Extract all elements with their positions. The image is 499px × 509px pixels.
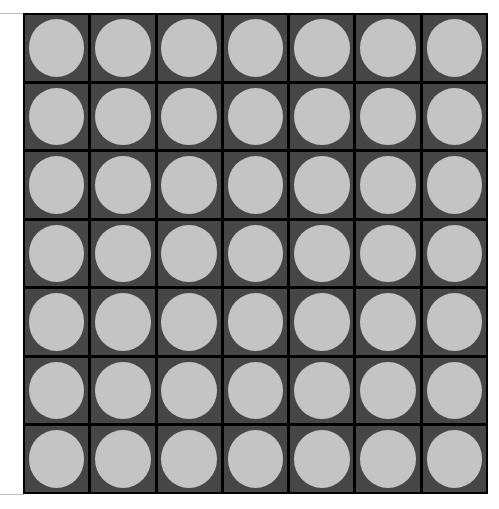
slot-empty [29, 225, 85, 283]
game-board [23, 13, 488, 494]
board-cell[interactable] [158, 221, 221, 287]
board-cell[interactable] [158, 84, 221, 150]
slot-empty [29, 88, 85, 146]
board-cell[interactable] [158, 358, 221, 424]
slot-empty [29, 19, 85, 77]
slot-empty [29, 293, 85, 351]
slot-empty [228, 293, 284, 351]
board-cell[interactable] [25, 84, 88, 150]
board-cell[interactable] [290, 15, 353, 81]
slot-empty [228, 362, 284, 420]
board-cell[interactable] [91, 84, 154, 150]
top-divider [0, 13, 24, 14]
slot-empty [95, 156, 151, 214]
slot-empty [360, 430, 416, 488]
board-cell[interactable] [25, 289, 88, 355]
slot-empty [228, 19, 284, 77]
slot-empty [294, 19, 350, 77]
board-cell[interactable] [91, 358, 154, 424]
board-cell[interactable] [423, 358, 486, 424]
board-cell[interactable] [423, 426, 486, 492]
board-cell[interactable] [158, 15, 221, 81]
board-cell[interactable] [356, 221, 419, 287]
slot-empty [29, 430, 85, 488]
board-cell[interactable] [91, 15, 154, 81]
slot-empty [29, 156, 85, 214]
slot-empty [427, 430, 483, 488]
slot-empty [294, 362, 350, 420]
slot-empty [360, 225, 416, 283]
board-cell[interactable] [25, 15, 88, 81]
board-cell[interactable] [423, 152, 486, 218]
board-cell[interactable] [356, 84, 419, 150]
slot-empty [228, 430, 284, 488]
board-cell[interactable] [356, 152, 419, 218]
slot-empty [360, 293, 416, 351]
board-cell[interactable] [290, 84, 353, 150]
bottom-divider [0, 494, 24, 495]
slot-empty [427, 88, 483, 146]
board-cell[interactable] [224, 289, 287, 355]
slot-empty [294, 293, 350, 351]
slot-empty [95, 19, 151, 77]
slot-empty [95, 430, 151, 488]
slot-empty [29, 362, 85, 420]
board-cell[interactable] [224, 358, 287, 424]
board-cell[interactable] [91, 152, 154, 218]
board-cell[interactable] [158, 426, 221, 492]
slot-empty [161, 19, 217, 77]
board-cell[interactable] [224, 15, 287, 81]
slot-empty [95, 362, 151, 420]
board-cell[interactable] [423, 221, 486, 287]
slot-empty [427, 362, 483, 420]
board-cell[interactable] [91, 221, 154, 287]
slot-empty [161, 156, 217, 214]
slot-empty [95, 225, 151, 283]
board-cell[interactable] [290, 152, 353, 218]
slot-empty [161, 293, 217, 351]
slot-empty [161, 88, 217, 146]
slot-empty [427, 293, 483, 351]
slot-empty [161, 225, 217, 283]
board-cell[interactable] [423, 289, 486, 355]
slot-empty [95, 293, 151, 351]
board-cell[interactable] [224, 84, 287, 150]
board-cell[interactable] [356, 289, 419, 355]
slot-empty [228, 88, 284, 146]
board-cell[interactable] [356, 426, 419, 492]
slot-empty [294, 88, 350, 146]
board-cell[interactable] [423, 84, 486, 150]
slot-empty [427, 225, 483, 283]
board-cell[interactable] [25, 426, 88, 492]
board-cell[interactable] [224, 152, 287, 218]
board-cell[interactable] [224, 221, 287, 287]
board-cell[interactable] [290, 426, 353, 492]
slot-empty [360, 88, 416, 146]
slot-empty [427, 156, 483, 214]
slot-empty [294, 225, 350, 283]
board-cell[interactable] [158, 289, 221, 355]
slot-empty [294, 156, 350, 214]
board-cell[interactable] [224, 426, 287, 492]
slot-empty [228, 156, 284, 214]
board-cell[interactable] [290, 358, 353, 424]
board-cell[interactable] [91, 289, 154, 355]
board-cell[interactable] [25, 221, 88, 287]
board-cell[interactable] [290, 289, 353, 355]
board-cell[interactable] [158, 152, 221, 218]
slot-empty [360, 156, 416, 214]
slot-empty [427, 19, 483, 77]
board-cell[interactable] [356, 15, 419, 81]
slot-empty [228, 225, 284, 283]
board-cell[interactable] [423, 15, 486, 81]
board-cell[interactable] [25, 358, 88, 424]
slot-empty [294, 430, 350, 488]
board-cell[interactable] [25, 152, 88, 218]
slot-empty [360, 19, 416, 77]
slot-empty [161, 430, 217, 488]
board-cell[interactable] [91, 426, 154, 492]
slot-empty [95, 88, 151, 146]
slot-empty [360, 362, 416, 420]
board-cell[interactable] [290, 221, 353, 287]
board-cell[interactable] [356, 358, 419, 424]
